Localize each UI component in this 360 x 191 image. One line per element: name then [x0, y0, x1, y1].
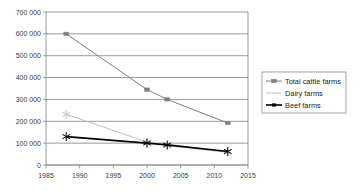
- data-point-marker: [62, 134, 66, 136]
- y-axis-tick-label: 700 000: [16, 9, 41, 16]
- data-point-marker: [165, 98, 170, 101]
- series-beef-farms: [62, 132, 231, 156]
- x-axis-tick-label: 2000: [139, 172, 155, 179]
- x-axis-tick-label: 2010: [207, 172, 223, 179]
- data-point-marker: [62, 114, 66, 116]
- x-axis-tick-label: 1985: [38, 172, 54, 179]
- data-point-marker: [66, 112, 70, 114]
- x-axis-tick-labels: 1985199019952000200520102015: [38, 172, 256, 179]
- x-axis-tick-label: 1995: [106, 172, 122, 179]
- legend-item-label: Beef farms: [285, 101, 321, 110]
- chart-canvas: 0100 000200 000300 000400 000500 000600 …: [0, 0, 360, 191]
- legend-item-label: Dairy farms: [285, 89, 323, 98]
- y-axis-tick-label: 100 000: [16, 140, 41, 147]
- x-axis-tick-label: 1990: [72, 172, 88, 179]
- series-total-cattle-farms: [64, 32, 230, 125]
- y-axis-tick-label: 500 000: [16, 52, 41, 59]
- legend-marker-swatch: [272, 103, 276, 106]
- x-axis-ticks-group: [46, 165, 248, 169]
- chart-legend: Total cattle farmsDairy farmsBeef farms: [262, 72, 346, 113]
- legend-item-label: Total cattle farms: [285, 77, 341, 86]
- data-point-marker: [62, 112, 66, 114]
- y-axis-tick-label: 0: [37, 162, 41, 169]
- series-line: [66, 34, 228, 123]
- data-point-marker: [272, 79, 277, 82]
- y-axis-tick-label: 300 000: [16, 96, 41, 103]
- series-group: [62, 32, 231, 157]
- data-point-marker: [225, 121, 230, 124]
- y-axis-tick-label: 400 000: [16, 74, 41, 81]
- x-axis-tick-label: 2005: [173, 172, 189, 179]
- y-axis-tick-label: 600 000: [16, 30, 41, 37]
- y-axis-tick-labels: 0100 000200 000300 000400 000500 000600 …: [16, 9, 41, 169]
- data-point-marker: [64, 32, 69, 35]
- y-axis-tick-label: 200 000: [16, 118, 41, 125]
- line-chart: 0100 000200 000300 000400 000500 000600 …: [0, 0, 360, 191]
- x-axis-tick-label: 2015: [240, 172, 256, 179]
- data-point-marker: [145, 88, 150, 91]
- data-point-marker: [62, 137, 66, 139]
